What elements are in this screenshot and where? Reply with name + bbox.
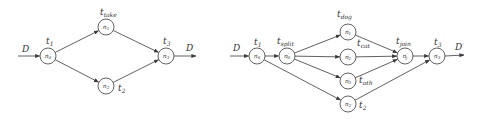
output-arrow — [445, 55, 464, 56]
node-r_n0p: n′0 — [279, 48, 295, 64]
output-label: D′ — [185, 43, 195, 53]
node-r_n3: n3 — [429, 48, 445, 64]
edge-n2-to-n3 — [113, 60, 158, 83]
task-label-take: ttake — [100, 7, 117, 18]
node-r_n3p: n′3 — [340, 73, 356, 89]
node-r_n0: n0 — [249, 48, 265, 64]
edge-n0-to-n1 — [55, 31, 98, 53]
edge-n0-to-n2 — [55, 60, 99, 83]
node-n3: n3 — [158, 48, 174, 64]
task-label-3: t3 — [434, 37, 442, 48]
edge-r_n0p-to-r_n2p — [295, 56, 340, 57]
node-r_njp: n′j — [397, 48, 413, 64]
edge-r_n0-to-r_n2 — [264, 60, 341, 100]
task-label-3: t3 — [163, 36, 171, 47]
edge-r_n0p-to-r_n3p — [294, 59, 340, 78]
edge-n1-to-n3 — [113, 30, 158, 52]
edge-r_n0p-to-r_n1p — [294, 35, 340, 53]
input-label: D — [21, 44, 29, 54]
node-r_n2p: n′2 — [340, 49, 356, 65]
workflow-diagram-canvas: DD′n0t1n1ttaken2t2n3t3 DD′n0t1n′0tsplitn… — [0, 0, 480, 121]
node-r_n2: n2 — [340, 96, 356, 112]
task-label-1: t1 — [46, 36, 53, 47]
task-label-cat: tcat — [357, 38, 371, 49]
diagram-sequential-split: DD′n0t1n1ttaken2t2n3t3 — [18, 7, 196, 94]
task-label-join: tjoin — [396, 36, 411, 48]
edge-r_n2p-to-r_njp — [356, 56, 397, 57]
node-n2: n2 — [98, 78, 114, 94]
task-label-split: tsplit — [277, 36, 294, 48]
task-label-1: t1 — [254, 37, 261, 48]
task-label-2: t2 — [118, 83, 126, 94]
task-label-dog: tdog — [337, 9, 352, 21]
node-n1: n1 — [98, 19, 114, 35]
diagram-parallel-split-join: DD′n0t1n′0tsplitn′1tdogn′2tcatn′3tothn2t… — [230, 9, 464, 112]
node-label: n′j — [403, 52, 408, 60]
node-r_n1p: n′1 — [340, 24, 356, 40]
task-label-oth: toth — [359, 75, 373, 86]
node-n0: n0 — [40, 48, 56, 64]
output-label: D′ — [454, 42, 464, 52]
task-label-2: t2 — [359, 100, 367, 111]
input-label: D — [232, 43, 240, 53]
